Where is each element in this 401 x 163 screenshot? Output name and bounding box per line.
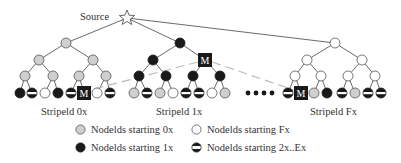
leaf-node	[155, 88, 165, 98]
black-circle-icon	[75, 142, 86, 153]
leaf-node	[181, 88, 191, 98]
stripe-label-0x: Stripeld 0x	[41, 106, 87, 117]
leaf-node	[207, 88, 217, 98]
tree-node	[343, 71, 353, 81]
leaf-node	[168, 88, 178, 98]
tree-node	[188, 71, 198, 81]
leaf-node	[142, 88, 152, 98]
tree-node	[134, 71, 144, 81]
tree-node	[20, 71, 30, 81]
legend-item-2x-Ex: Nodelds starting 2x..Ex	[191, 142, 306, 153]
tree-node	[88, 55, 98, 65]
tree-node	[101, 71, 111, 81]
tree-node	[74, 71, 84, 81]
tree-nodes: MMM	[15, 38, 386, 100]
ellipsis-dots	[246, 91, 275, 96]
leaf-node	[337, 88, 347, 98]
legend: Nodelds starting 0x Nodelds starting Fx …	[75, 124, 335, 160]
leaf-node	[40, 88, 50, 98]
gray-circle-icon	[75, 124, 86, 135]
leaf-node	[194, 88, 204, 98]
leaf-node	[105, 88, 115, 98]
leaf-node	[376, 88, 386, 98]
legend-label: Nodelds starting 0x	[91, 124, 173, 135]
leaf-node	[92, 88, 102, 98]
leaf-node	[15, 88, 25, 98]
legend-item-0x: Nodelds starting 0x	[75, 124, 173, 135]
leaf-node	[53, 88, 63, 98]
leaf-node	[220, 88, 230, 98]
svg-text:M: M	[201, 55, 210, 66]
tree-node	[148, 55, 158, 65]
tree-node	[48, 71, 58, 81]
leaf-node	[283, 88, 293, 98]
tree-node	[370, 71, 380, 81]
legend-label: Nodelds starting 2x..Ex	[207, 142, 306, 153]
svg-text:M: M	[297, 88, 306, 99]
tree-node	[302, 55, 312, 65]
leaf-node	[309, 88, 319, 98]
tree-node-m-box: M	[198, 53, 212, 67]
source-label: Source	[80, 11, 109, 22]
tree-node	[330, 38, 340, 48]
tree-node	[175, 38, 185, 48]
leaf-node	[27, 88, 37, 98]
leaf-node	[363, 88, 373, 98]
tree-node	[34, 55, 44, 65]
legend-item-1x: Nodelds starting 1x	[75, 142, 173, 153]
striped-circle-icon	[191, 142, 202, 153]
tree-node	[215, 71, 225, 81]
legend-label: Nodelds starting Fx	[207, 124, 290, 135]
white-circle-icon	[191, 124, 202, 135]
leaf-node	[129, 88, 139, 98]
leaf-node-m-box: M	[294, 86, 308, 100]
tree-node	[357, 55, 367, 65]
tree-node	[290, 71, 300, 81]
legend-label: Nodelds starting 1x	[91, 142, 173, 153]
leaf-node	[66, 88, 76, 98]
tree-node	[61, 38, 71, 48]
leaf-node	[350, 88, 360, 98]
legend-item-Fx: Nodelds starting Fx	[191, 124, 290, 135]
tree-node	[161, 71, 171, 81]
leaf-node	[322, 88, 332, 98]
svg-text:M: M	[80, 88, 89, 99]
stripe-label-1x: Stripeld 1x	[156, 106, 202, 117]
leaf-node-m-box: M	[77, 86, 91, 100]
stripe-label-Fx: Stripeld Fx	[310, 106, 357, 117]
star-icon	[119, 10, 134, 25]
tree-node	[316, 71, 326, 81]
